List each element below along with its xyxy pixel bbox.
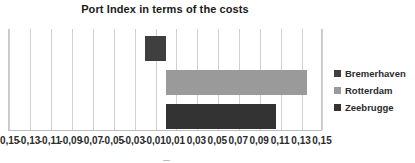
bar-rotterdam[interactable]: [166, 70, 307, 95]
bar-chart: Port Index in terms of the costs -0,15-0…: [0, 0, 415, 163]
legend-item-rotterdam[interactable]: Rotterdam: [334, 83, 415, 98]
x-tick-label: -0,11: [39, 134, 61, 147]
legend-swatch-icon: [334, 104, 341, 111]
chart-legend: BremerhavenRotterdamZeebrugge: [334, 66, 415, 117]
plot-area: [8, 29, 322, 131]
legend-label: Bremerhaven: [345, 68, 406, 80]
x-tick-label: 0,03: [187, 134, 206, 147]
bar-series-group: [9, 29, 321, 130]
legend-swatch-icon: [334, 87, 341, 94]
x-tick-label: 0,01: [166, 134, 185, 147]
legend-label: Rotterdam: [345, 85, 393, 97]
x-tick-label: 0,13: [291, 134, 310, 147]
legend-item-zeebrugge[interactable]: Zeebrugge: [334, 100, 415, 115]
axis-stub-mark: —: [163, 156, 170, 163]
legend-item-bremerhaven[interactable]: Bremerhaven: [334, 66, 415, 81]
legend-label: Zeebrugge: [345, 102, 394, 114]
bar-bremerhaven[interactable]: [145, 36, 166, 61]
gridline: [322, 29, 323, 130]
x-axis-tick-labels: -0,15-0,13-0,11-0,09-0,07-0,05-0,03-0,01…: [0, 134, 415, 150]
x-tick-label: -0,07: [80, 134, 103, 147]
x-tick-label: -0,03: [122, 134, 145, 147]
legend-swatch-icon: [334, 70, 341, 77]
x-tick-label: 0,09: [249, 134, 268, 147]
x-tick-label: 0,15: [312, 134, 331, 147]
x-tick-label: -0,13: [18, 134, 41, 147]
x-tick-label: 0,11: [271, 134, 290, 147]
bar-zeebrugge[interactable]: [166, 104, 276, 129]
x-tick-label: -0,05: [101, 134, 124, 147]
x-tick-label: 0,07: [229, 134, 248, 147]
chart-title: Port Index in terms of the costs: [0, 2, 330, 16]
x-tick-label: -0,15: [0, 134, 19, 147]
x-tick-label: 0,05: [208, 134, 227, 147]
x-tick-label: -0,09: [59, 134, 82, 147]
x-tick-label: -0,01: [143, 134, 166, 147]
